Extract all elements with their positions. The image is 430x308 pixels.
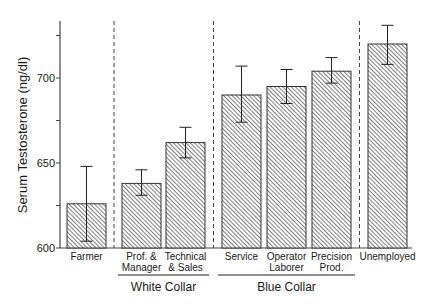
group-labels: White CollarBlue Collar xyxy=(118,275,355,294)
bars xyxy=(67,44,407,248)
x-tick-label: Prof. & xyxy=(126,251,157,262)
x-tick-label: Farmer xyxy=(70,251,103,262)
group-label: White Collar xyxy=(131,280,196,294)
y-tick-label: 700 xyxy=(37,72,55,84)
bar xyxy=(312,71,351,248)
bar-chart: 600650700 FarmerProf. &ManagerTechnical&… xyxy=(0,0,430,308)
x-tick-label: Operator xyxy=(267,251,307,262)
bar xyxy=(368,44,407,248)
x-tick-label: Precision xyxy=(311,251,352,262)
x-tick-label: Prod. xyxy=(320,262,344,273)
x-tick-label: Service xyxy=(225,251,259,262)
y-axis-label: Serum Testosterone (ng/dl) xyxy=(15,57,30,214)
y-tick-label: 600 xyxy=(37,242,55,254)
x-tick-label: Unemployed xyxy=(359,251,415,262)
y-tick-label: 650 xyxy=(37,157,55,169)
x-tick-labels: FarmerProf. &ManagerTechnical& SalesServ… xyxy=(70,251,415,273)
x-tick-label: Manager xyxy=(122,262,162,273)
x-tick-label: & Sales xyxy=(168,262,202,273)
group-label: Blue Collar xyxy=(257,280,316,294)
x-tick-label: Laborer xyxy=(269,262,304,273)
x-tick-label: Technical xyxy=(165,251,207,262)
bar xyxy=(267,87,306,249)
bar xyxy=(166,143,205,248)
